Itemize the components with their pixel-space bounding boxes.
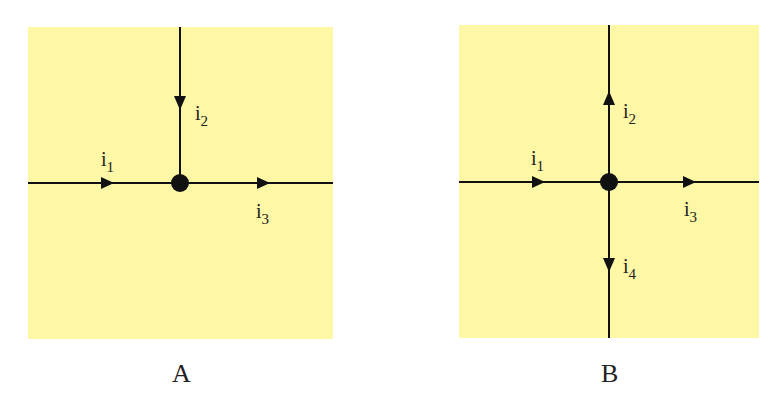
panel-a: i1 i2 i3 A bbox=[28, 27, 333, 388]
panel-b: i1 i2 i3 i4 B bbox=[459, 25, 759, 388]
junction-node bbox=[171, 174, 189, 192]
panel-b-caption: B bbox=[601, 359, 618, 388]
junction-node bbox=[600, 173, 618, 191]
panel-a-caption: A bbox=[172, 359, 191, 388]
kirchhoff-current-diagrams: i1 i2 i3 A i1 i2 i3 i4 B bbox=[0, 0, 782, 410]
